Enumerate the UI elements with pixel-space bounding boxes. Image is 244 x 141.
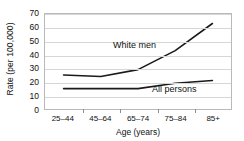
gridline (45, 28, 231, 29)
x-axis-tick-labels: 25–4445–6465–7475–8485+ (44, 114, 232, 126)
y-tick-label: 0 (34, 106, 39, 115)
plot-area (44, 13, 232, 110)
y-tick-label: 20 (30, 78, 39, 87)
gridline (45, 69, 231, 70)
x-axis-tick-mark (83, 109, 84, 113)
x-axis-title: Age (years) (44, 127, 232, 137)
line-chart: Rate (per 100,000) 010203040506070 White… (0, 0, 244, 141)
y-tick-label: 10 (30, 92, 39, 101)
y-axis-tick-labels: 010203040506070 (20, 13, 42, 110)
x-axis-tick-mark (158, 109, 159, 113)
y-tick-label: 50 (30, 36, 39, 45)
x-tick-label: 25–44 (52, 114, 74, 123)
y-tick-label: 40 (30, 50, 39, 59)
x-tick-label: 65–74 (127, 114, 149, 123)
y-tick-label: 30 (30, 64, 39, 73)
x-axis-tick-mark (120, 109, 121, 113)
series-label-white-men: White men (113, 40, 156, 50)
y-axis-title-text: Rate (per 100,000) (5, 22, 15, 95)
series-label-all-persons: All persons (152, 84, 197, 94)
gridline (45, 56, 231, 57)
x-tick-label: 75–84 (164, 114, 186, 123)
x-tick-label: 45–64 (89, 114, 111, 123)
x-axis-tick-mark (195, 109, 196, 113)
gridline (45, 83, 231, 84)
x-tick-label: 85+ (206, 114, 220, 123)
y-axis-title: Rate (per 100,000) (0, 0, 20, 118)
gridline (45, 14, 231, 15)
y-tick-label: 70 (30, 9, 39, 18)
gridline (45, 97, 231, 98)
y-tick-label: 60 (30, 22, 39, 31)
